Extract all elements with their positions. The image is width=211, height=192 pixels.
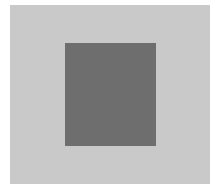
inner-dark-rectangle bbox=[65, 43, 156, 146]
